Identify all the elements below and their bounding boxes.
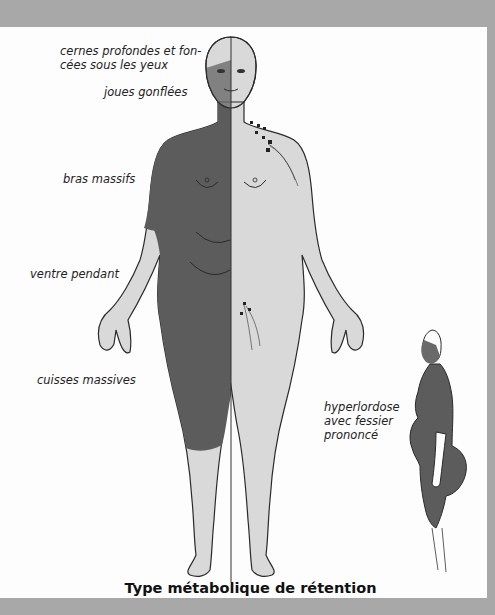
affected-zone-upper-arm [144, 140, 172, 231]
label-belly: ventre pendant [30, 267, 119, 281]
affected-zone-face [206, 60, 231, 108]
side-legs [432, 528, 446, 572]
label-side-line-1: hyperlordose [324, 400, 400, 414]
figure-title: Type métabolique de rétention [0, 580, 487, 596]
label-side-line-2: avec fessier [324, 414, 400, 428]
label-eyes: cernes profondes et fon- cées sous les y… [60, 44, 201, 72]
label-eyes-line-1: cernes profondes et fon- [60, 44, 201, 58]
label-side-view: hyperlordose avec fessier prononcé [324, 400, 400, 442]
side-profile-figure [410, 330, 466, 572]
label-side-line-3: prononcé [324, 428, 400, 442]
label-thighs: cuisses massives [37, 373, 136, 387]
label-arms: bras massifs [63, 172, 135, 186]
label-eyes-line-2: cées sous les yeux [60, 58, 201, 72]
label-cheeks: joues gonflées [104, 85, 187, 99]
front-figure [98, 37, 363, 582]
body-illustration [0, 0, 495, 615]
